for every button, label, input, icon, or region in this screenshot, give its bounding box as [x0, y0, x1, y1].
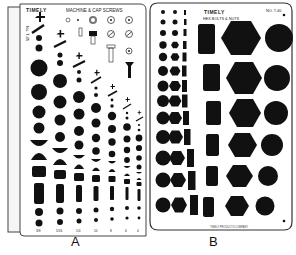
svg-text:HEX BOLTS & NUTS: HEX BOLTS & NUTS — [203, 17, 239, 21]
svg-text:5/16: 5/16 — [56, 229, 62, 233]
templates-photo: TIMELY MACHINE & CAP SCREWS No. T-45 — [0, 0, 296, 255]
brand-label-a: TIMELY — [26, 7, 47, 13]
svg-text:3/8: 3/8 — [36, 229, 41, 233]
figure-caption-b: B — [209, 234, 218, 249]
svg-text:NO. T-40: NO. T-40 — [266, 9, 281, 13]
figure-caption-a: A — [71, 234, 80, 249]
svg-text:1/4: 1/4 — [76, 229, 81, 233]
model-a: No. T-45 — [25, 26, 30, 42]
svg-text:TIMELY: TIMELY — [204, 9, 225, 15]
svg-text:10: 10 — [94, 229, 98, 233]
svg-text:8: 8 — [110, 229, 112, 233]
template-b: TIMELY HEX BOLTS & NUTS NO. T-40 — [150, 3, 293, 230]
svg-text:4: 4 — [137, 229, 139, 233]
svg-text:TIMELY PRODUCTS COMPANY: TIMELY PRODUCTS COMPANY — [210, 225, 248, 229]
svg-text:6: 6 — [125, 229, 127, 233]
template-a: TIMELY MACHINE & CAP SCREWS No. T-45 — [8, 4, 146, 236]
title-a: MACHINE & CAP SCREWS — [66, 8, 122, 13]
